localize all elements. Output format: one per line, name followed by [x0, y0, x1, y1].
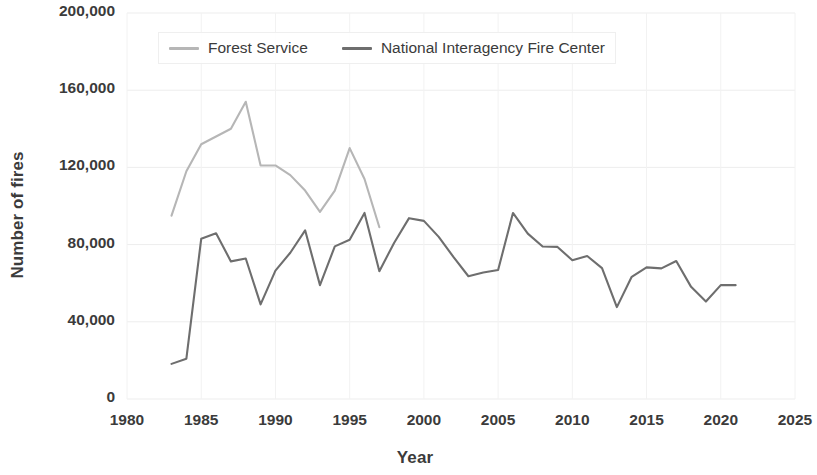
chart-legend: Forest ServiceNational Interagency Fire … — [158, 32, 616, 64]
y-tick-label: 120,000 — [5, 156, 115, 174]
x-tick-label: 1980 — [92, 411, 162, 429]
x-axis-title: Year — [355, 448, 475, 468]
x-tick-label: 2010 — [537, 411, 607, 429]
y-tick-label: 0 — [5, 388, 115, 406]
legend-item-1[interactable]: Forest Service — [169, 39, 308, 57]
legend-label: Forest Service — [208, 39, 308, 57]
y-tick-label: 160,000 — [5, 79, 115, 97]
legend-label: National Interagency Fire Center — [381, 39, 605, 57]
x-tick-label: 2020 — [686, 411, 756, 429]
legend-item-2[interactable]: National Interagency Fire Center — [342, 39, 605, 57]
x-tick-label: 2000 — [389, 411, 459, 429]
x-tick-label: 1990 — [240, 411, 310, 429]
legend-line-swatch-icon — [169, 47, 199, 50]
y-tick-label: 200,000 — [5, 2, 115, 20]
gridlines — [127, 13, 795, 399]
x-tick-label: 2015 — [612, 411, 682, 429]
y-tick-label: 80,000 — [5, 234, 115, 252]
legend-line-swatch-icon — [342, 47, 372, 50]
series-line-2 — [172, 213, 736, 364]
x-tick-label: 2025 — [760, 411, 817, 429]
x-tick-label: 1985 — [166, 411, 236, 429]
data-series-layer — [172, 102, 736, 364]
x-tick-label: 2005 — [463, 411, 533, 429]
y-tick-label: 40,000 — [5, 311, 115, 329]
x-tick-label: 1995 — [315, 411, 385, 429]
